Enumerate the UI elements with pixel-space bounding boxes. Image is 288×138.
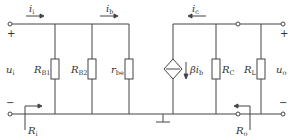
- output-plus-sign: +: [280, 28, 288, 39]
- resistor-rc: [212, 59, 220, 79]
- label-uo: uo: [276, 64, 286, 77]
- label-rc: RC: [221, 64, 235, 77]
- label-rb2: RB2: [70, 64, 87, 77]
- output-node-bottom-icon: [236, 112, 240, 116]
- label-ro: Ro: [235, 125, 248, 138]
- label-ic: ic: [192, 3, 199, 16]
- output-node-top-icon: [236, 22, 240, 26]
- label-rl: RL: [243, 64, 257, 77]
- input-minus-sign: −: [6, 97, 14, 108]
- input-plus-sign: +: [7, 28, 15, 39]
- label-rbe: rbe: [111, 64, 124, 77]
- label-ib: ib: [106, 3, 113, 16]
- resistor-rb1: [51, 59, 59, 79]
- resistor-rb2: [88, 59, 96, 79]
- label-ri: Ri: [27, 125, 38, 138]
- label-rb1: RB1: [33, 64, 50, 77]
- input-terminal-top-icon: [8, 22, 12, 26]
- label-ui: ui: [6, 64, 15, 77]
- circuit-diagram: ii ib ic RB1 RB2 rbe βib RC RL ui uo + −…: [0, 0, 288, 138]
- input-terminal-bottom-icon: [8, 112, 12, 116]
- resistor-rl: [257, 59, 265, 79]
- label-ii: ii: [29, 3, 34, 16]
- label-source: βib: [189, 64, 203, 77]
- output-terminal-top-icon: [281, 22, 285, 26]
- resistor-rbe: [125, 59, 133, 79]
- output-minus-sign: −: [279, 97, 287, 108]
- output-terminal-bottom-icon: [281, 112, 285, 116]
